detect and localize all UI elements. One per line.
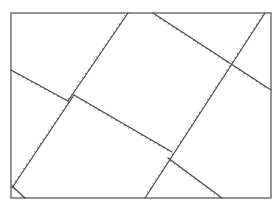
diagram-canvas	[0, 0, 279, 209]
line-b-mid	[74, 95, 172, 152]
line-e-lower	[168, 158, 222, 198]
line-b-left	[11, 70, 68, 101]
line-c-top	[153, 13, 271, 90]
hatched-lines	[11, 13, 271, 198]
line-a-lower	[12, 95, 74, 188]
line-d-right	[145, 13, 265, 198]
line-a-upper	[68, 13, 128, 101]
corner-tick	[12, 186, 25, 198]
frame-border	[11, 13, 271, 198]
